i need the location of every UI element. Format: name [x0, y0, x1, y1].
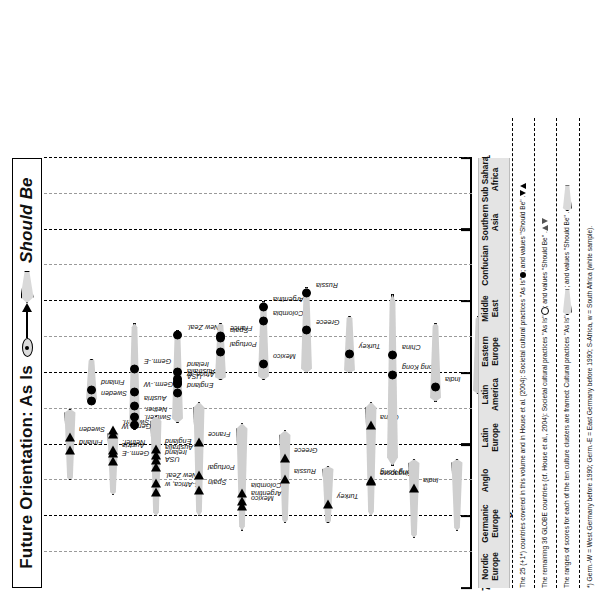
data-point-marker [280, 475, 290, 484]
footnote-1: The 25 (+1*) countries covered in this v… [518, 118, 528, 588]
page-title: Future Orientation: As Is [17, 365, 37, 569]
country-label: Germ.-E [122, 449, 149, 458]
as-is-legend-icon [18, 271, 36, 357]
country-label: New Zeal. [165, 471, 197, 480]
cluster-range-band-should_be [193, 402, 206, 517]
data-point-marker [194, 485, 204, 494]
country-label: China [402, 343, 421, 352]
cluster-range-band-should_be [451, 459, 464, 531]
country-label: Mexico [273, 352, 296, 361]
footnote-text-part: The 25 (+1*) countries covered in this v… [519, 278, 526, 588]
data-point-marker [431, 382, 440, 391]
country-label: England [187, 381, 213, 390]
data-point-marker [173, 367, 182, 376]
country-label: France [230, 324, 252, 333]
country-label: Austria [144, 394, 166, 403]
country-label: Turkey [359, 342, 380, 351]
data-point-marker [173, 331, 182, 340]
grid-line-minor [44, 551, 472, 552]
cluster-name-line2: Europe [491, 498, 501, 550]
country-label: Greece [294, 446, 318, 455]
country-label: Russia [294, 467, 316, 476]
data-point-marker [388, 371, 397, 380]
country-label: New Zeal. [187, 323, 219, 332]
cluster-range-band-should_be [365, 402, 378, 517]
grid-line [44, 515, 472, 516]
country-label: Greece [316, 318, 340, 327]
country-label: Colombia [273, 309, 303, 318]
country-label: Germ.-W [144, 380, 173, 389]
data-point-marker [323, 500, 333, 509]
data-point-marker [151, 487, 161, 496]
cluster-range-band-as_is [386, 294, 399, 466]
cluster-range-band-as_is [343, 316, 356, 373]
country-label: Finland [101, 378, 125, 387]
grid-line-minor [44, 265, 472, 266]
data-point-marker [130, 421, 139, 430]
country-label: Colombia [251, 481, 281, 490]
connector-line-icon [26, 312, 29, 338]
data-point-marker [366, 421, 376, 430]
ellipse-icon [22, 338, 33, 357]
footnote-text-part: ; and values "Should Be" . [519, 196, 526, 272]
country-label: Portugal [208, 463, 235, 472]
cluster-header-strip: NordicEuropeGermanicEuropeAngloLatinEuro… [478, 158, 510, 588]
footnote-text-part: ; and values "Should Be" . [541, 231, 548, 307]
country-label: England [165, 437, 191, 446]
chart-title-box: Future Orientation: As Is Should Be [12, 158, 42, 588]
country-label: Nether. [122, 438, 145, 447]
country-label: Sweden [79, 425, 105, 434]
footnote-text-part: The ranges of scores for each of the ten… [563, 315, 570, 588]
footnote-symbol-should-be [519, 183, 526, 196]
cluster-name-line2: Africa [491, 154, 501, 206]
data-point-marker [302, 288, 311, 297]
cluster-name-line2: East [491, 283, 501, 335]
country-label: India [423, 476, 439, 485]
grid-line [44, 300, 472, 301]
data-point-marker [130, 401, 139, 410]
cluster-header-10: Sub SaharaAfrica [481, 154, 500, 206]
filled-triangle-icon [22, 303, 32, 312]
country-label: Ireland [187, 360, 209, 369]
data-point-marker [65, 445, 75, 454]
data-point-marker [388, 351, 397, 360]
grid-line [44, 372, 472, 373]
data-point-marker [259, 303, 268, 312]
country-label: France [208, 430, 230, 439]
country-label: Portugal [230, 340, 257, 349]
cluster-range-band-as_is [85, 359, 98, 402]
data-point-marker [173, 389, 182, 398]
country-label: India [445, 375, 461, 384]
data-point-marker [87, 396, 96, 405]
data-point-marker [216, 331, 225, 340]
data-point-marker [216, 348, 225, 357]
data-point-marker [259, 359, 268, 368]
plot-area: 7654321 HighMediumLow FinlandSwedenSwede… [52, 158, 472, 588]
country-label: Germ.-E [144, 357, 171, 366]
data-point-marker [108, 457, 118, 466]
footnote-divider [579, 118, 580, 588]
country-label: Spain [208, 478, 226, 487]
footnote-2: The remaining 36 GLOBE countries (cf. Ho… [540, 118, 550, 588]
country-label: Argentina [273, 295, 304, 304]
data-point-marker [65, 432, 75, 441]
footnote-divider [534, 118, 535, 588]
axis-tick [461, 587, 472, 589]
page-title-suffix: Should Be [17, 177, 37, 263]
data-point-marker [108, 425, 118, 434]
data-point-marker [345, 350, 354, 359]
data-point-marker [87, 386, 96, 395]
spear-shape-icon [21, 271, 34, 303]
country-label: Sweden [101, 389, 127, 398]
grid-line [44, 229, 472, 230]
country-label: Russia [316, 281, 338, 290]
data-point-marker [173, 375, 182, 384]
cluster-range-band-should_be [408, 459, 421, 538]
grid-line-minor [44, 193, 472, 194]
footnote-text-part: ; and values "Should Be" . [563, 211, 570, 289]
footnote-symbol-as-is [541, 307, 548, 315]
filled-dot-icon [25, 346, 29, 350]
footnote-divider [512, 118, 513, 588]
data-point-marker [194, 437, 204, 446]
